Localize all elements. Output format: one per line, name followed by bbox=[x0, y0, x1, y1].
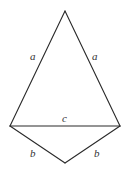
edge-right-upper-a bbox=[65, 11, 120, 126]
label-right-upper: a bbox=[92, 50, 98, 62]
edge-left-upper-a bbox=[10, 11, 65, 126]
label-left-lower: b bbox=[30, 147, 36, 159]
edge-left-lower-b bbox=[10, 126, 65, 163]
label-base: c bbox=[62, 112, 67, 124]
label-right-lower: b bbox=[94, 147, 100, 159]
label-left-upper: a bbox=[30, 50, 36, 62]
edge-right-lower-b bbox=[65, 126, 120, 163]
kite-diagram: a a c b b bbox=[0, 0, 128, 176]
